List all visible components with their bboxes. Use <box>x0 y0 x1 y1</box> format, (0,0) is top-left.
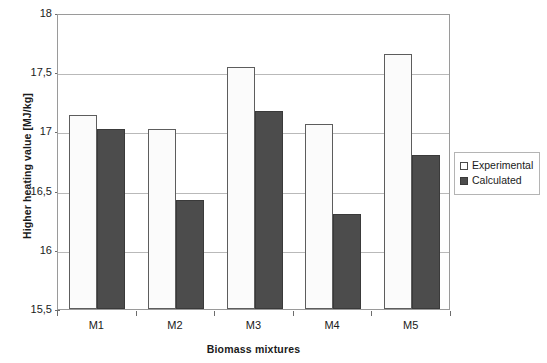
y-tick-label: 16,5 <box>10 186 52 197</box>
legend-swatch-experimental <box>460 162 468 170</box>
x-tick-mark <box>57 311 58 316</box>
y-axis-ticks: 15,51616,51717,518 <box>6 0 52 363</box>
bar-m4-calculated <box>333 214 361 309</box>
x-tick-label: M5 <box>381 319 441 331</box>
bar-m2-experimental <box>148 129 176 309</box>
bar-m3-calculated <box>255 111 283 309</box>
bar-m3-experimental <box>227 67 255 309</box>
bar-m1-experimental <box>69 115 97 309</box>
bar-m5-experimental <box>384 54 412 309</box>
plot-area <box>57 14 450 310</box>
legend-item: Experimental <box>460 158 533 173</box>
y-tick-label: 18 <box>10 8 52 19</box>
legend-label: Calculated <box>472 175 522 186</box>
x-tick-label: M4 <box>302 319 362 331</box>
x-tick-label: M1 <box>66 319 126 331</box>
bar-m2-calculated <box>176 200 204 309</box>
y-tick-label: 16 <box>10 245 52 256</box>
x-tick-mark <box>293 311 294 316</box>
bar-m4-experimental <box>305 124 333 309</box>
y-tick-label: 17,5 <box>10 67 52 78</box>
chart-legend: ExperimentalCalculated <box>454 152 540 195</box>
x-tick-label: M2 <box>145 319 205 331</box>
bar-chart: Higher heating value [MJ/kg] 15,51616,51… <box>0 0 547 363</box>
x-tick-label: M3 <box>224 319 284 331</box>
x-tick-mark <box>371 311 372 316</box>
bar-m5-calculated <box>412 155 440 309</box>
y-tick-label: 17 <box>10 126 52 137</box>
bar-m1-calculated <box>97 129 125 309</box>
x-axis-title: Biomass mixtures <box>57 343 450 355</box>
y-tick-label: 15,5 <box>10 304 52 315</box>
x-tick-mark <box>450 311 451 316</box>
bars-layer <box>58 15 449 309</box>
legend-item: Calculated <box>460 173 533 188</box>
x-tick-mark <box>214 311 215 316</box>
legend-swatch-calculated <box>460 177 468 185</box>
legend-label: Experimental <box>472 160 533 171</box>
x-tick-mark <box>136 311 137 316</box>
